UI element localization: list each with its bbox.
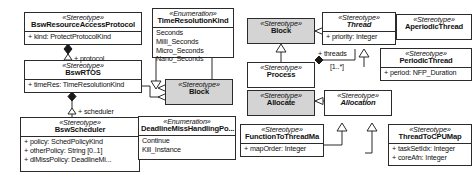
attribute-compartment: + taskSetIdx: Integer + coreAfn: Integer bbox=[389, 143, 471, 164]
class-function-to-thread-map[interactable]: «Stereotype» FunctionToThreadMa + mapOrd… bbox=[240, 124, 324, 157]
class-bsw-rtos[interactable]: «Stereotype» BswRTOS + timeRes: TimeReso… bbox=[24, 60, 142, 93]
class-name: BswRTOS bbox=[27, 69, 139, 77]
edge-label-protocol: + protocol bbox=[74, 54, 104, 63]
class-name: AperiodicThread bbox=[399, 23, 469, 31]
class-header: «Stereotype» BswRTOS bbox=[25, 61, 141, 79]
enum-literal-compartment: Continue Kill_Instance bbox=[139, 135, 235, 156]
enum-header: «Enumeration» TimeResolutionKind bbox=[153, 9, 233, 27]
attribute-row: + timeRes: TimeResolutionKind bbox=[28, 81, 139, 90]
enum-literal: Nano_Seconds bbox=[156, 55, 231, 64]
enum-literal: Continue bbox=[142, 137, 233, 146]
class-header: «Stereotype» Process bbox=[248, 63, 314, 81]
enum-literal: Seconds bbox=[156, 29, 231, 38]
class-name: BswResourceAccessProtocol bbox=[27, 21, 139, 29]
class-header: «Stereotype» Allocation bbox=[325, 91, 391, 109]
class-name: BswScheduler bbox=[23, 126, 137, 134]
class-thread-to-cpu-map[interactable]: «Stereotype» ThreadToCPUMap + taskSetIdx… bbox=[388, 124, 472, 166]
class-name: Process bbox=[250, 71, 312, 79]
class-process[interactable]: «Stereotype» Process bbox=[247, 62, 315, 88]
class-name: Allocate bbox=[250, 99, 312, 107]
enum-header: «Enumeration» DeadlineMissHandlingPo... bbox=[139, 117, 235, 135]
edge-allocation-to-allocate bbox=[315, 98, 324, 105]
class-bsw-scheduler[interactable]: «Stereotype» BswScheduler + policy: Sche… bbox=[20, 117, 140, 172]
enumeration-deadline-miss-handling-policy[interactable]: «Enumeration» DeadlineMissHandlingPo... … bbox=[138, 116, 236, 160]
attribute-compartment: + kind: ProtectProtocolKind bbox=[25, 31, 141, 43]
edge-block-process bbox=[276, 44, 286, 62]
class-name: PeriodicThread bbox=[383, 57, 469, 65]
enumeration-time-resolution-kind[interactable]: «Enumeration» TimeResolutionKind Seconds… bbox=[152, 8, 234, 58]
attribute-compartment: + priority: Integer bbox=[323, 31, 395, 43]
edge-label-threads-multiplicity: [1..*] bbox=[330, 62, 344, 71]
enum-name: TimeResolutionKind bbox=[155, 17, 231, 25]
class-allocate[interactable]: «Stereotype» Allocate bbox=[247, 90, 315, 116]
attribute-row: + dlMissPolicy: DeadlineMi... bbox=[24, 156, 137, 165]
attribute-compartment: + policy: SchedPolicyKind + otherPolicy:… bbox=[21, 136, 139, 165]
class-block-center[interactable]: «Stereotype» Block bbox=[247, 18, 315, 44]
class-aperiodic-thread[interactable]: «Stereotype» AperiodicThread bbox=[396, 14, 472, 40]
enum-name: DeadlineMissHandlingPo... bbox=[141, 125, 233, 133]
enum-literal: Kill_Instance bbox=[142, 146, 233, 155]
edge-label-scheduler: + scheduler bbox=[78, 107, 114, 116]
edge-periodic-to-thread bbox=[359, 49, 369, 67]
attribute-row: + mapOrder: Integer bbox=[244, 145, 321, 154]
class-name: Allocation bbox=[327, 99, 389, 107]
enum-literal-compartment: Seconds Milli_Seconds Micro_Seconds Nano… bbox=[153, 27, 233, 65]
class-periodic-thread[interactable]: «Stereotype» PeriodicThread + period: NF… bbox=[380, 48, 472, 81]
class-header: «Stereotype» FunctionToThreadMa bbox=[241, 125, 323, 143]
enum-literal: Micro_Seconds bbox=[156, 47, 231, 56]
class-header: «Stereotype» Block bbox=[248, 19, 314, 37]
class-name: Thread bbox=[325, 21, 393, 29]
attribute-row: + kind: ProtectProtocolKind bbox=[28, 33, 139, 42]
class-header: «Stereotype» BswResourceAccessProtocol bbox=[25, 13, 141, 31]
enum-literal: Milli_Seconds bbox=[156, 38, 231, 47]
class-header: «Stereotype» ThreadToCPUMap bbox=[389, 125, 471, 143]
attribute-row: + period: NFP_Duration bbox=[384, 69, 469, 78]
attribute-compartment: + mapOrder: Integer bbox=[241, 143, 323, 155]
class-header: «Stereotype» AperiodicThread bbox=[397, 15, 471, 33]
attribute-row: + coreAfn: Integer bbox=[392, 154, 469, 163]
class-thread[interactable]: «Stereotype» Thread + priority: Integer bbox=[322, 12, 396, 45]
class-bsw-resource-access-protocol[interactable]: «Stereotype» BswResourceAccessProtocol +… bbox=[24, 12, 142, 45]
attribute-row: + otherPolicy: String [0..1] bbox=[24, 147, 137, 156]
class-header: «Stereotype» Thread bbox=[323, 13, 395, 31]
edge-label-threads: + threads bbox=[318, 49, 347, 58]
class-name: FunctionToThreadMa bbox=[243, 133, 321, 141]
edge-tcmap-to-allocation bbox=[365, 123, 377, 153]
class-name: Block bbox=[168, 88, 230, 96]
attribute-row: + priority: Integer bbox=[326, 33, 393, 42]
uml-diagram-canvas: «Stereotype» BswResourceAccessProtocol +… bbox=[0, 0, 475, 177]
attribute-row: + taskSetIdx: Integer bbox=[392, 145, 469, 154]
class-name: Block bbox=[250, 27, 312, 35]
class-block-left[interactable]: «Stereotype» Block bbox=[165, 79, 233, 105]
attribute-row: + policy: SchedPolicyKind bbox=[24, 138, 137, 147]
class-header: «Stereotype» BswScheduler bbox=[21, 118, 139, 136]
class-name: ThreadToCPUMap bbox=[391, 133, 469, 141]
class-header: «Stereotype» PeriodicThread bbox=[381, 49, 471, 67]
class-header: «Stereotype» Allocate bbox=[248, 91, 314, 109]
attribute-compartment: + period: NFP_Duration bbox=[381, 67, 471, 79]
class-allocation[interactable]: «Stereotype» Allocation bbox=[324, 90, 392, 116]
attribute-compartment: + timeRes: TimeResolutionKind bbox=[25, 79, 141, 91]
class-header: «Stereotype» Block bbox=[166, 80, 232, 98]
